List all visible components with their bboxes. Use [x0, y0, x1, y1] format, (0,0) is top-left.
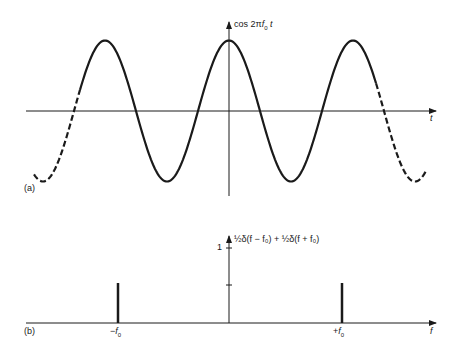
label-t: t — [268, 19, 273, 29]
y-axis-label-b: ½δ(f − f₀) + ½δ(f + f₀) — [234, 234, 319, 244]
cosine-wave-dashed-left — [34, 90, 80, 182]
y-axis-label-a: cos 2πf0 t — [234, 19, 273, 31]
pos-sub: 0 — [341, 332, 344, 338]
neg-sub: 0 — [118, 332, 121, 338]
tick-label-one: 1 — [217, 242, 222, 252]
panel-tag-b: (b) — [24, 326, 35, 336]
cosine-wave-dashed-right — [376, 83, 426, 181]
x-axis-label-t: t — [430, 113, 433, 123]
panel-tag-a: (a) — [24, 183, 35, 193]
pos-f0-label: +f0 — [333, 326, 344, 338]
x-axis-label-f: f — [430, 326, 433, 336]
label-cos: cos 2π — [234, 19, 262, 29]
panel-b — [26, 236, 436, 323]
neg-f0-label: −f0 — [110, 326, 121, 338]
panel-a — [26, 22, 436, 196]
figure-canvas — [0, 0, 458, 349]
